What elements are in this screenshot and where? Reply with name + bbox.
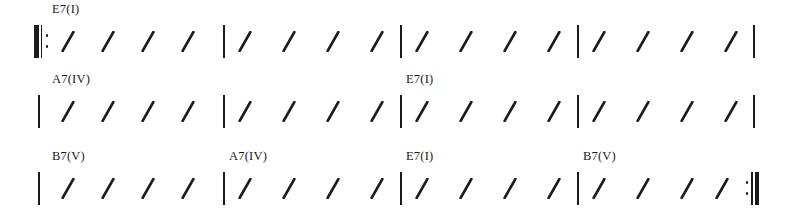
chord-symbol: B7(V) <box>583 149 616 163</box>
beat-slash <box>141 101 155 122</box>
beat-slash <box>326 31 340 52</box>
beat-slash <box>680 178 694 199</box>
beat-slash <box>326 178 340 199</box>
beat-slash <box>547 101 561 122</box>
beat-slash <box>592 31 606 52</box>
barline-thin-segment <box>751 172 753 205</box>
music-system-1: E7(I) <box>0 0 790 70</box>
beat-slash <box>592 178 606 199</box>
barline-thick-segment <box>755 172 760 205</box>
beat-slash <box>592 101 606 122</box>
barline-end <box>753 25 755 58</box>
beat-slash <box>61 178 75 199</box>
staff-line-3 <box>0 172 790 206</box>
beat-slash <box>724 101 738 122</box>
beat-slash <box>238 101 252 122</box>
beat-slash <box>282 178 296 199</box>
chord-symbol: B7(V) <box>52 149 85 163</box>
beat-slash <box>503 178 517 199</box>
repeat-end-barline <box>745 172 763 205</box>
barline-start <box>38 95 40 128</box>
beat-slash <box>724 31 738 52</box>
beat-slash <box>636 101 650 122</box>
barline <box>400 25 402 58</box>
beat-slash <box>101 31 115 52</box>
beat-slash <box>101 101 115 122</box>
beat-slash <box>141 31 155 52</box>
barline <box>223 25 225 58</box>
repeat-dot-upper <box>746 181 749 184</box>
beat-slash <box>61 31 75 52</box>
beat-slash <box>680 31 694 52</box>
beat-slash <box>238 31 252 52</box>
barline-start <box>38 172 40 205</box>
music-system-3: B7(V) A7(IV) E7(I) B7(V) <box>0 147 790 217</box>
beat-slash <box>459 178 473 199</box>
beat-slash <box>181 101 195 122</box>
barline-thin-segment <box>41 25 43 58</box>
staff-line-2 <box>0 95 790 129</box>
beat-slash <box>547 31 561 52</box>
barline <box>577 95 579 128</box>
beat-slash <box>680 101 694 122</box>
beat-slash <box>503 101 517 122</box>
beat-slash <box>141 178 155 199</box>
beat-slash <box>415 101 429 122</box>
beat-slash <box>101 178 115 199</box>
beat-slash <box>636 31 650 52</box>
beat-slash <box>238 178 252 199</box>
barline <box>577 25 579 58</box>
barline <box>223 95 225 128</box>
beat-slash <box>715 178 729 199</box>
barline <box>223 172 225 205</box>
beat-slash <box>370 101 384 122</box>
barline <box>577 172 579 205</box>
chord-symbol: E7(I) <box>406 149 433 163</box>
chord-symbol: A7(IV) <box>229 149 267 163</box>
barline-thick-segment <box>34 25 39 58</box>
beat-slash <box>326 101 340 122</box>
beat-slash <box>459 31 473 52</box>
barline-end <box>753 95 755 128</box>
barline <box>400 95 402 128</box>
chord-symbol: E7(I) <box>406 72 433 86</box>
beat-slash <box>370 178 384 199</box>
beat-slash <box>370 31 384 52</box>
beat-slash <box>282 31 296 52</box>
staff-line-1 <box>0 25 790 59</box>
repeat-dot-lower <box>46 45 49 48</box>
beat-slash <box>636 178 650 199</box>
beat-slash <box>547 178 561 199</box>
beat-slash <box>181 178 195 199</box>
barline <box>400 172 402 205</box>
beat-slash <box>415 178 429 199</box>
chord-symbol: E7(I) <box>52 2 79 16</box>
beat-slash <box>282 101 296 122</box>
repeat-start-barline <box>34 25 52 58</box>
beat-slash <box>415 31 429 52</box>
chord-symbol: A7(IV) <box>52 72 90 86</box>
repeat-dot-upper <box>46 34 49 37</box>
beat-slash <box>503 31 517 52</box>
repeat-dot-lower <box>746 192 749 195</box>
music-system-2: A7(IV) E7(I) <box>0 70 790 140</box>
beat-slash <box>61 101 75 122</box>
beat-slash <box>181 31 195 52</box>
chord-chart-sheet: E7(I) <box>0 0 790 219</box>
beat-slash <box>459 101 473 122</box>
